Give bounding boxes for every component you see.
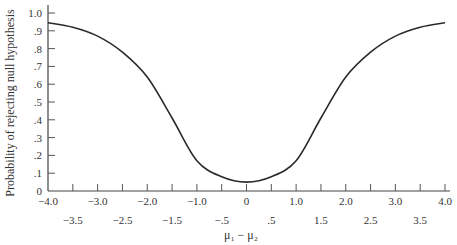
y-tick-label: .4 [34,114,43,126]
y-tick-label: .1 [34,167,42,179]
power-curve-line [48,23,445,182]
power-curve-chart: 0.1.2.3.4.5.6.7.8.91.0 −4.0−3.0−2.0−1.00… [0,0,457,245]
x-tick-label-major: 0 [244,195,250,207]
x-tick-label-major: 3.0 [389,195,403,207]
chart-svg: 0.1.2.3.4.5.6.7.8.91.0 −4.0−3.0−2.0−1.00… [0,0,457,245]
y-axis-label: Probability of rejecting null hypothesis [3,9,17,197]
x-tick-label-major: −3.0 [88,195,108,207]
x-tick-label-minor: 1.5 [314,214,328,226]
x-axis-ticks: −4.0−3.0−2.0−1.001.02.03.04.0−3.5−2.5−1.… [38,184,452,226]
x-tick-label-minor: .5 [267,214,276,226]
x-tick-label-minor: 3.5 [413,214,427,226]
y-tick-label: .8 [34,43,43,55]
x-tick-label-minor: −3.5 [63,214,83,226]
y-tick-label: .2 [34,149,42,161]
y-axis-ticks: 0.1.2.3.4.5.6.7.8.91.0 [28,7,55,197]
x-axis-label: μ₁ − μ₂ [224,228,258,242]
x-tick-label-major: −1.0 [187,195,207,207]
y-tick-label: .6 [34,78,43,90]
x-tick-label-minor: −1.5 [162,214,182,226]
y-tick-label: .3 [34,132,43,144]
y-tick-label: 1.0 [28,7,42,19]
x-tick-label-major: 2.0 [339,195,353,207]
x-tick-label-major: 4.0 [438,195,452,207]
x-tick-label-minor: 2.5 [364,214,378,226]
x-tick-label-minor: −2.5 [112,214,132,226]
x-tick-label-major: −2.0 [137,195,157,207]
x-tick-label-minor: −.5 [214,214,229,226]
y-tick-label: .7 [34,60,43,72]
y-tick-label: .5 [34,96,43,108]
y-tick-label: .9 [34,25,43,37]
axes [48,5,450,191]
x-tick-label-major: −4.0 [38,195,58,207]
x-tick-label-major: 1.0 [289,195,303,207]
